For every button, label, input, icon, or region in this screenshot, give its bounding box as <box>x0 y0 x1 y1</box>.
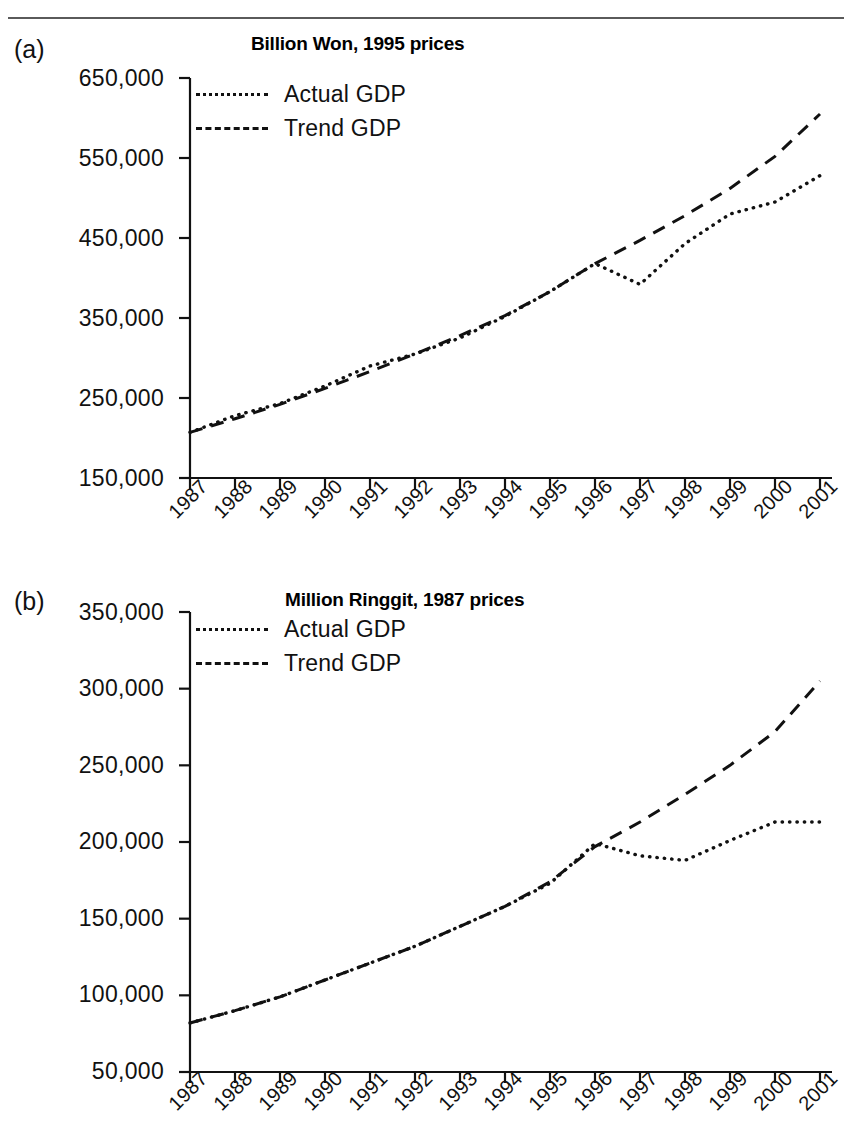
page-header-rule <box>8 17 844 19</box>
chart-svg-b <box>0 565 852 1136</box>
chart-panel-a: (a) Billion Won, 1995 prices 650,000 550… <box>0 20 852 565</box>
chart-panel-b: (b) Million Ringgit, 1987 prices 350,000… <box>0 565 852 1136</box>
figure-page: (a) Billion Won, 1995 prices 650,000 550… <box>0 0 852 1136</box>
plot-area-b <box>0 565 852 1136</box>
